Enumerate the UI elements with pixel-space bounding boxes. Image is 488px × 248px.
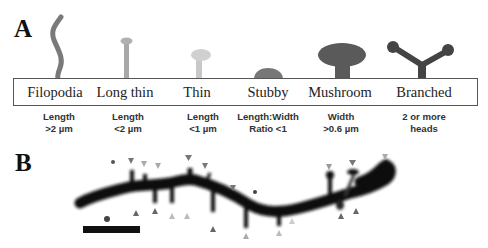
thin-neck xyxy=(196,58,202,79)
debris-dot xyxy=(253,190,257,194)
branched-arms xyxy=(395,48,447,65)
filopodia-shape xyxy=(53,17,62,79)
branched-head-right xyxy=(442,44,454,56)
label-filopodia: Filopodia xyxy=(27,84,83,101)
criterion-mushroom: Width>0.6 µm xyxy=(323,111,359,135)
criterion-thin: Length<1 µm xyxy=(187,111,219,135)
long-thin-neck xyxy=(124,42,129,79)
long-thin-head xyxy=(121,38,133,45)
thin-head xyxy=(191,49,211,61)
label-branched: Branched xyxy=(396,84,452,101)
debris-dot xyxy=(104,216,110,222)
label-mushroom: Mushroom xyxy=(308,84,372,101)
label-stubby: Stubby xyxy=(247,84,288,101)
label-thin: Thin xyxy=(183,84,210,101)
criterion-filopodia: Length>2 µm xyxy=(43,111,75,135)
mushroom-head xyxy=(318,43,366,67)
dendrite-image xyxy=(80,161,393,228)
label-long-thin: Long thin xyxy=(97,84,154,101)
panel-b-label: B xyxy=(15,150,32,175)
scale-bar xyxy=(83,226,140,233)
criterion-branched: 2 or moreheads xyxy=(402,111,446,135)
branched-head-left xyxy=(387,41,399,53)
criterion-stubby: Length:WidthRatio <1 xyxy=(237,111,299,135)
criterion-long-thin: Length<2 µm xyxy=(112,111,144,135)
debris-dot xyxy=(111,160,115,164)
